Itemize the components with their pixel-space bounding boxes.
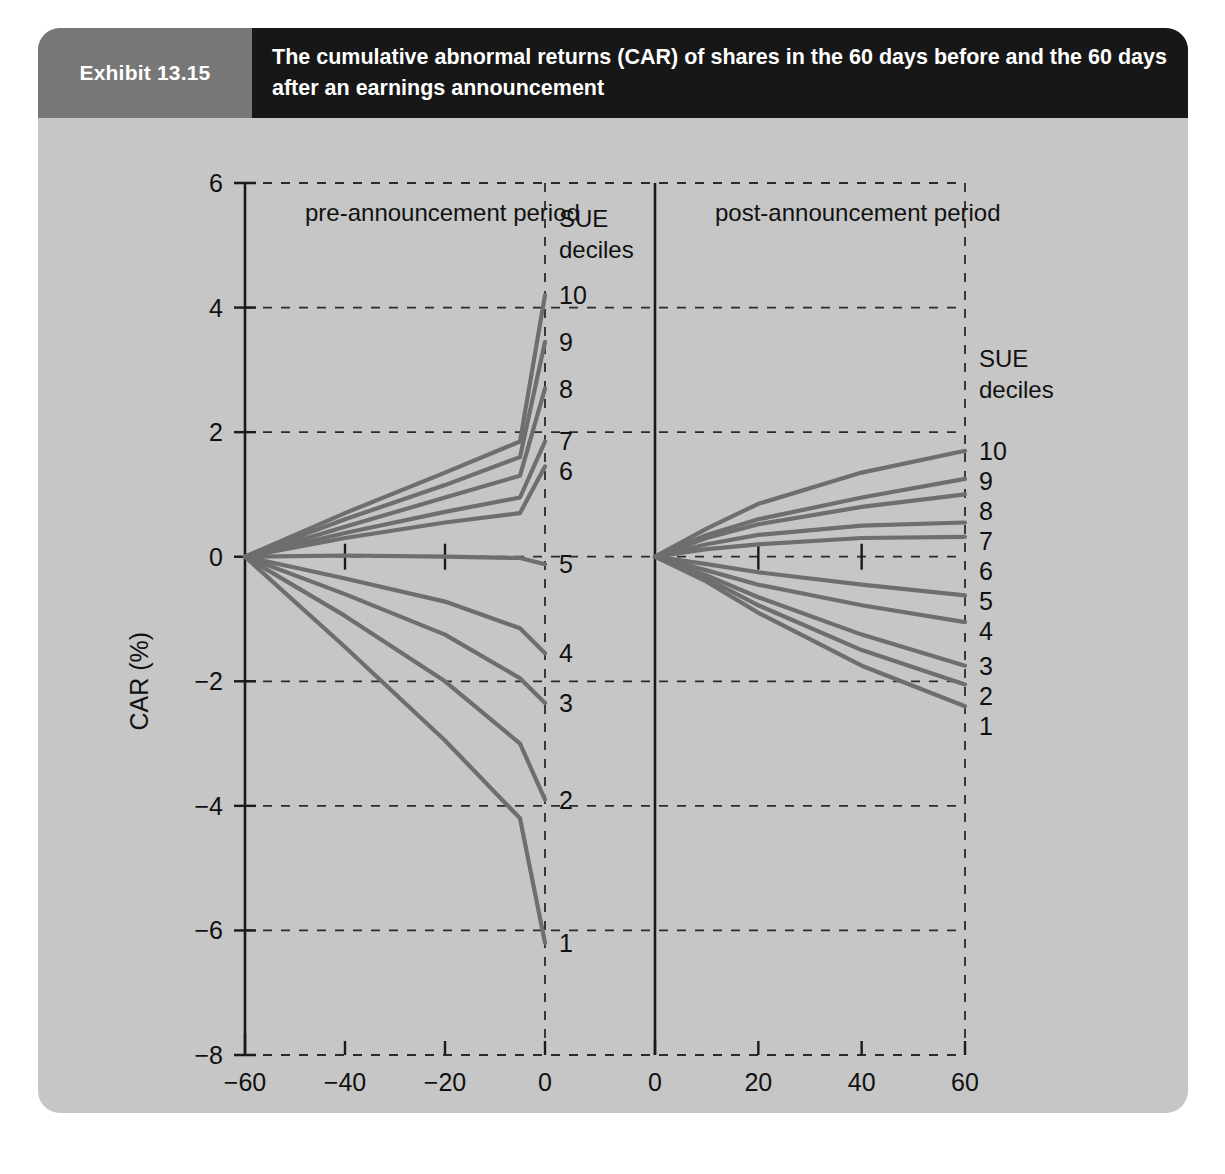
- legend-title-sue-post: SUE: [979, 345, 1028, 372]
- legend-title-deciles-post: deciles: [979, 376, 1054, 403]
- panel-title-post: post-announcement period: [715, 199, 1001, 226]
- panel-title-pre: pre-announcement period: [305, 199, 580, 226]
- decile-label-post-10: 10: [979, 437, 1007, 465]
- decile-label-pre-4: 4: [559, 639, 573, 667]
- series-line-post-decile-2: [655, 557, 965, 685]
- decile-label-post-8: 8: [979, 497, 993, 525]
- decile-label-post-9: 9: [979, 467, 993, 495]
- exhibit-page: Exhibit 13.15 The cumulative abnormal re…: [0, 0, 1225, 1174]
- y-tick-label-1: 4: [209, 294, 223, 322]
- exhibit-panel: Exhibit 13.15 The cumulative abnormal re…: [38, 28, 1188, 1113]
- exhibit-header: Exhibit 13.15 The cumulative abnormal re…: [38, 28, 1188, 118]
- decile-label-pre-1: 1: [559, 929, 573, 957]
- decile-label-post-5: 5: [979, 587, 993, 615]
- legend-title-sue-pre: SUE: [559, 205, 608, 232]
- x-tick-label-pre-0: −60: [224, 1068, 266, 1096]
- decile-label-pre-2: 2: [559, 786, 573, 814]
- y-tick-label-2: 2: [209, 418, 223, 446]
- x-tick-label-post-0: 0: [648, 1068, 662, 1096]
- y-tick-label-4: −2: [194, 667, 223, 695]
- decile-label-pre-9: 9: [559, 328, 573, 356]
- decile-label-post-1: 1: [979, 712, 993, 740]
- y-tick-label-5: −4: [194, 792, 223, 820]
- x-tick-label-pre-3: 0: [538, 1068, 552, 1096]
- y-tick-label-0: 6: [209, 169, 223, 197]
- y-axis-title: CAR (%): [125, 632, 153, 731]
- x-tick-label-post-1: 20: [744, 1068, 772, 1096]
- decile-label-pre-7: 7: [559, 427, 573, 455]
- decile-label-pre-5: 5: [559, 550, 573, 578]
- series-line-pre-decile-5: [245, 556, 545, 565]
- x-tick-label-pre-2: −20: [424, 1068, 466, 1096]
- car-line-chart: 6420−2−4−6−8CAR (%)−60−40−200pre-announc…: [38, 118, 1188, 1113]
- decile-label-post-7: 7: [979, 527, 993, 555]
- y-tick-label-7: −8: [194, 1041, 223, 1069]
- legend-title-deciles-pre: deciles: [559, 236, 634, 263]
- decile-label-post-6: 6: [979, 557, 993, 585]
- y-tick-label-3: 0: [209, 543, 223, 571]
- decile-label-pre-3: 3: [559, 689, 573, 717]
- decile-label-post-3: 3: [979, 652, 993, 680]
- chart-area: 6420−2−4−6−8CAR (%)−60−40−200pre-announc…: [38, 118, 1188, 1113]
- y-tick-label-6: −6: [194, 916, 223, 944]
- series-line-pre-decile-4: [245, 557, 545, 654]
- exhibit-title: The cumulative abnormal returns (CAR) of…: [252, 28, 1188, 118]
- decile-label-post-4: 4: [979, 617, 993, 645]
- series-line-post-decile-3: [655, 557, 965, 666]
- series-line-pre-decile-2: [245, 557, 545, 800]
- chart-svg-container: 6420−2−4−6−8CAR (%)−60−40−200pre-announc…: [38, 118, 1188, 1113]
- x-tick-label-pre-1: −40: [324, 1068, 366, 1096]
- decile-label-pre-6: 6: [559, 457, 573, 485]
- decile-label-pre-8: 8: [559, 375, 573, 403]
- x-tick-label-post-3: 60: [951, 1068, 979, 1096]
- exhibit-number-label: Exhibit 13.15: [38, 28, 252, 118]
- x-tick-label-post-2: 40: [848, 1068, 876, 1096]
- decile-label-pre-10: 10: [559, 281, 587, 309]
- decile-label-post-2: 2: [979, 682, 993, 710]
